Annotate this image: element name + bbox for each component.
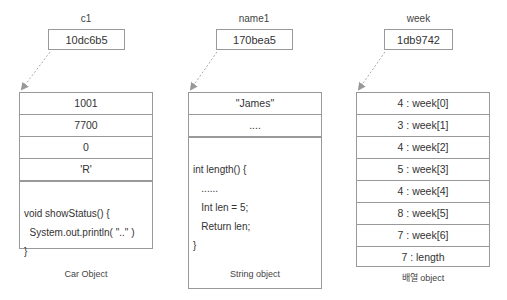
- array-element-row: 8 : week[5]: [357, 203, 489, 225]
- field-row: 1001: [20, 93, 152, 115]
- field-row: "James": [189, 93, 321, 115]
- var-name-week: week: [384, 13, 453, 24]
- string-object-box: "James" .... int length() { ...... Int l…: [188, 92, 322, 289]
- var-name-name1: name1: [216, 13, 292, 24]
- caption-string-object: String object: [188, 269, 322, 279]
- code-line: }: [24, 242, 148, 261]
- reference-box-c1: 10dc6b5: [48, 29, 125, 50]
- code-line: ......: [193, 179, 317, 198]
- array-element-row: 4 : week[2]: [357, 137, 489, 159]
- array-element-row: 3 : week[1]: [357, 115, 489, 137]
- code-line: void showStatus() {: [24, 204, 148, 223]
- var-name-c1: c1: [48, 13, 124, 24]
- code-line: Int len = 5;: [193, 198, 317, 217]
- car-object-box: 1001 7700 0 'R' void showStatus() { Syst…: [19, 92, 153, 249]
- field-row: ....: [189, 115, 321, 137]
- field-row: 'R': [20, 159, 152, 181]
- code-line: }: [193, 236, 317, 255]
- field-row: 7700: [20, 115, 152, 137]
- array-element-row: 4 : week[0]: [357, 93, 489, 115]
- code-line: System.out.println( ".." ): [24, 223, 148, 242]
- reference-box-week: 1db9742: [384, 29, 453, 50]
- reference-box-name1: 170bea5: [216, 29, 293, 50]
- code-line: int length() {: [193, 160, 317, 179]
- array-object-box: 4 : week[0] 3 : week[1] 4 : week[2] 5 : …: [356, 92, 490, 267]
- caption-array-object: 배열 object: [356, 271, 490, 284]
- array-element-row: 4 : week[4]: [357, 181, 489, 203]
- array-length-row: 7 : length: [357, 247, 489, 269]
- array-element-row: 7 : week[6]: [357, 225, 489, 247]
- caption-car-object: Car Object: [19, 269, 153, 279]
- array-element-row: 5 : week[3]: [357, 159, 489, 181]
- field-row: 0: [20, 137, 152, 159]
- code-line: Return len;: [193, 217, 317, 236]
